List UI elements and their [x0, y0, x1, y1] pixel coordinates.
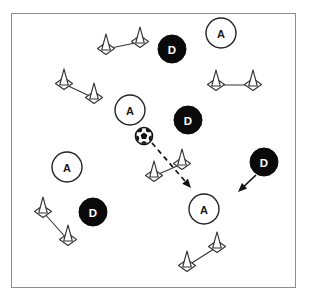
defender-label: D [168, 44, 176, 56]
defender-marker[interactable]: D [79, 198, 107, 226]
cone-gate [179, 232, 226, 272]
cone-gates-layer [35, 27, 262, 272]
cone-icon [86, 83, 103, 104]
defender-marker[interactable]: D [250, 148, 278, 176]
cone-icon [60, 225, 77, 246]
ball-layer [133, 127, 154, 147]
attacker-label: A [126, 105, 134, 117]
cone-icon [132, 27, 149, 48]
cone-icon [209, 232, 226, 253]
attacker-label: A [217, 28, 225, 40]
cone-gate [146, 149, 191, 182]
defender-label: D [260, 157, 268, 169]
cone-icon [35, 197, 52, 218]
drill-diagram-canvas: AAAADDDD [0, 0, 312, 297]
defender-label: D [89, 207, 97, 219]
cone-gate [98, 27, 149, 55]
defender-marker[interactable]: D [174, 106, 202, 134]
defender-run-arrow [238, 175, 256, 192]
cone-icon [245, 70, 262, 91]
arrow-shaft [244, 175, 256, 187]
cone-icon [179, 251, 196, 272]
defender-label: D [184, 115, 192, 127]
cone-gate [208, 70, 262, 91]
attacker-label: A [63, 162, 71, 174]
cone-icon [98, 34, 115, 55]
soccer-ball-icon[interactable] [133, 127, 154, 147]
attacker-marker[interactable]: A [189, 194, 219, 224]
attacker-marker[interactable]: A [115, 95, 145, 125]
players-layer: AAAADDDD [52, 18, 278, 226]
drill-diagram-stage: AAAADDDD [0, 0, 312, 297]
attacker-marker[interactable]: A [52, 152, 82, 182]
cone-gate [56, 69, 103, 104]
attacker-label: A [200, 204, 208, 216]
attacker-marker[interactable]: A [206, 18, 236, 48]
cone-icon [208, 70, 225, 91]
defender-marker[interactable]: D [158, 35, 186, 63]
cone-gate [35, 197, 77, 246]
arrows-layer [152, 143, 256, 192]
cone-icon [146, 161, 163, 182]
